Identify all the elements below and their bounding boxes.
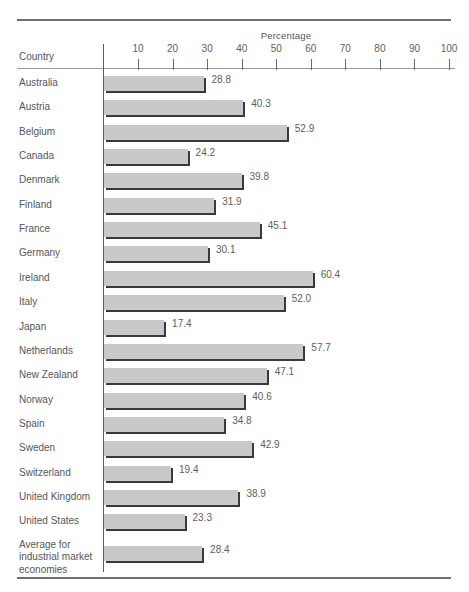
bar-row: Germany30.1 (0, 242, 469, 266)
x-axis-tick (138, 59, 139, 70)
bar-row: Netherlands57.7 (0, 340, 469, 364)
bar-row-label: France (19, 223, 50, 236)
bar-value-label: 24.2 (196, 147, 215, 158)
x-axis-tick-label: 60 (305, 43, 316, 54)
bar (104, 100, 243, 115)
x-axis-tick (414, 59, 415, 70)
bar-row: United Kingdom38.9 (0, 486, 469, 510)
bar-row: Spain34.8 (0, 413, 469, 437)
bar-row-label: Sweden (19, 442, 55, 455)
bar-value-label: 31.9 (222, 196, 241, 207)
bar-row-label: Spain (19, 418, 45, 431)
bar-value-label: 52.0 (292, 293, 311, 304)
bar-value-label: 28.4 (210, 544, 229, 555)
bar-row-label: Finland (19, 199, 52, 212)
bar-value-label: 39.8 (250, 171, 269, 182)
bar-row: Italy52.0 (0, 291, 469, 315)
x-axis-tick (311, 59, 312, 70)
x-axis-tick-label: 70 (340, 43, 351, 54)
x-axis-tick (380, 59, 381, 70)
bar (104, 198, 214, 213)
bar-row: Sweden42.9 (0, 437, 469, 461)
bar (104, 173, 242, 188)
bar-row-label: Norway (19, 394, 53, 407)
bar (104, 393, 244, 408)
bar-value-label: 38.9 (246, 488, 265, 499)
bar (104, 490, 238, 505)
x-axis-tick-label: 80 (374, 43, 385, 54)
bar-value-label: 42.9 (260, 439, 279, 450)
bar-row-label: United Kingdom (19, 491, 90, 504)
bottom-rule (17, 577, 451, 579)
bar-row-label: Italy (19, 296, 37, 309)
x-axis-tick-label: 40 (236, 43, 247, 54)
bar (104, 344, 303, 359)
bar-row-label: Ireland (19, 272, 50, 285)
bar (104, 466, 171, 481)
bar-value-label: 57.7 (311, 342, 330, 353)
bar (104, 76, 204, 91)
bar-value-label: 45.1 (268, 220, 287, 231)
bar-row: United States23.3 (0, 510, 469, 534)
x-axis-tick (276, 59, 277, 70)
top-rule (17, 19, 451, 21)
bar-row-label: New Zealand (19, 369, 78, 382)
bar (104, 514, 185, 529)
bar-row: Austria40.3 (0, 96, 469, 120)
bar-row: Finland31.9 (0, 194, 469, 218)
x-axis-tick (242, 59, 243, 70)
x-axis-tick-label: 20 (167, 43, 178, 54)
x-axis-tick (207, 59, 208, 70)
x-axis-tick (449, 59, 450, 70)
bar-row: Denmark39.8 (0, 169, 469, 193)
bar (104, 149, 188, 164)
x-axis-tick-label: 100 (441, 43, 458, 54)
bar-row: Switzerland19.4 (0, 462, 469, 486)
column-header-country: Country (19, 51, 54, 62)
bar (104, 222, 260, 237)
bar (104, 441, 252, 456)
bar-value-label: 40.6 (252, 391, 271, 402)
bar-row: New Zealand47.1 (0, 364, 469, 388)
bar-value-label: 23.3 (193, 512, 212, 523)
bar (104, 125, 287, 140)
bar-row-label: Average for industrial market economies (19, 539, 103, 577)
bar-row: Ireland60.4 (0, 267, 469, 291)
bar (104, 368, 267, 383)
bar-row-label: Denmark (19, 174, 60, 187)
bar-row: France45.1 (0, 218, 469, 242)
bar-row: Belgium52.9 (0, 121, 469, 145)
axis-title-percentage: Percentage (238, 30, 334, 41)
bar-row-label: Austria (19, 101, 50, 114)
bar-row-label: Canada (19, 150, 54, 163)
bar (104, 546, 202, 561)
bar-row: Canada24.2 (0, 145, 469, 169)
bar-row-label: United States (19, 515, 79, 528)
bar (104, 417, 224, 432)
bar-value-label: 17.4 (172, 318, 191, 329)
bar-value-label: 47.1 (275, 366, 294, 377)
bar-value-label: 40.3 (251, 98, 270, 109)
bar (104, 320, 164, 335)
bar-row: Australia28.8 (0, 72, 469, 96)
bar-row-label: Germany (19, 247, 60, 260)
x-axis-tick (173, 59, 174, 70)
bar-value-label: 52.9 (295, 123, 314, 134)
bar-value-label: 28.8 (212, 74, 231, 85)
bar-row-label: Switzerland (19, 467, 71, 480)
header-separator (17, 68, 455, 69)
bar (104, 271, 313, 286)
bar-row: Norway40.6 (0, 389, 469, 413)
x-axis-tick-label: 50 (271, 43, 282, 54)
bar-row-label: Japan (19, 321, 46, 334)
x-axis-tick-label: 30 (202, 43, 213, 54)
bar-row-label: Australia (19, 77, 58, 90)
bar-value-label: 19.4 (179, 464, 198, 475)
bar-row-label: Netherlands (19, 345, 73, 358)
bar-value-label: 34.8 (232, 415, 251, 426)
x-axis-tick-label: 10 (132, 43, 143, 54)
bar-value-label: 30.1 (216, 244, 235, 255)
bar-row: Japan17.4 (0, 316, 469, 340)
bar (104, 246, 208, 261)
bar (104, 295, 284, 310)
